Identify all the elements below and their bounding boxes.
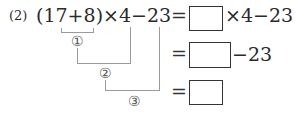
step-1-suffix: ×4−23 bbox=[225, 4, 293, 26]
bracket-2-right bbox=[130, 27, 131, 64]
step-marker-2: ② bbox=[99, 66, 112, 80]
operand-d: 23 bbox=[147, 4, 171, 26]
bracket-2-bottom bbox=[77, 63, 131, 64]
operand-a: 17 bbox=[43, 4, 67, 26]
bracket-3-bottom bbox=[105, 90, 160, 91]
minus-sign: − bbox=[131, 4, 147, 26]
answer-box-1[interactable] bbox=[189, 6, 223, 31]
close-paren: ) bbox=[96, 4, 103, 26]
answer-box-2[interactable] bbox=[189, 42, 231, 68]
expression: (17+8)×4−23 bbox=[36, 4, 171, 26]
equals-3: = bbox=[171, 80, 187, 102]
step-marker-3: ③ bbox=[128, 94, 141, 108]
bracket-2-left bbox=[77, 48, 78, 64]
bracket-3-right bbox=[159, 27, 160, 91]
problem-label: (2) bbox=[9, 5, 27, 27]
times-sign: × bbox=[103, 4, 119, 26]
step-marker-1: ① bbox=[71, 34, 84, 48]
equals-1: = bbox=[171, 4, 187, 26]
operand-c: 4 bbox=[119, 4, 131, 26]
operand-b: 8 bbox=[84, 4, 96, 26]
step-2-suffix: −23 bbox=[232, 43, 272, 65]
equals-2: = bbox=[171, 42, 187, 64]
plus-sign: + bbox=[68, 4, 84, 26]
answer-box-3[interactable] bbox=[189, 80, 223, 105]
